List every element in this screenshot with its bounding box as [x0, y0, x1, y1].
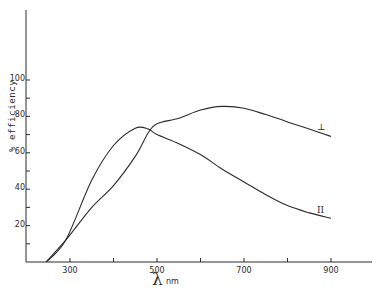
curve-label-parallel: II	[317, 205, 325, 215]
x-tick-label: 300	[62, 266, 77, 275]
x-axis-lambda: λ	[152, 269, 163, 289]
y-axis-label: % efficiency	[7, 80, 17, 152]
x-tick-label: 900	[323, 266, 338, 275]
efficiency-chart: 300500700900 20406080100 % efficiency λ …	[0, 0, 383, 291]
x-ticks: 300500700900	[62, 258, 338, 275]
x-axis-unit: nm	[166, 277, 179, 286]
curve-perpendicular	[46, 106, 331, 262]
curve-parallel	[46, 127, 331, 262]
y-tick-label: 20	[15, 220, 25, 229]
x-tick-label: 700	[236, 266, 251, 275]
y-tick-label: 40	[15, 183, 25, 192]
curve-label-perpendicular: ⊥	[317, 122, 325, 132]
curves	[46, 106, 331, 262]
